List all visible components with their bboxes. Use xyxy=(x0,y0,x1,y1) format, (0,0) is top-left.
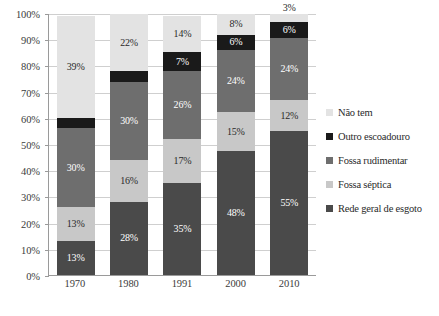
y-axis-tick-label: 90% xyxy=(21,35,40,46)
y-axis-tick-mark xyxy=(45,276,49,277)
bar-segment[interactable]: 30% xyxy=(110,82,148,160)
bar-segment[interactable]: 28% xyxy=(110,202,148,275)
legend-item-label: Fossa séptica xyxy=(338,179,391,190)
x-axis-tick-label: 1970 xyxy=(56,278,94,300)
bar-column[interactable]: 35%17%26%7%14% xyxy=(163,14,201,275)
x-axis: 19701980199120002010 xyxy=(48,278,316,300)
bar-column[interactable]: 28%16%30%4%22% xyxy=(110,14,148,275)
bar-segment[interactable]: 8% xyxy=(217,14,255,35)
bar-segment-label: 24% xyxy=(280,64,298,74)
legend-item[interactable]: Outro escoadouro xyxy=(326,124,438,148)
legend-item[interactable]: Fossa rudimentar xyxy=(326,148,438,172)
bar-segment[interactable]: 4% xyxy=(57,118,95,128)
legend-item-label: Não tem xyxy=(338,107,372,118)
bar-segment[interactable]: 24% xyxy=(217,50,255,112)
legend-item[interactable]: Fossa séptica xyxy=(326,172,438,196)
bar-segment[interactable]: 7% xyxy=(163,52,201,70)
bar-segment[interactable]: 4% xyxy=(110,71,148,81)
bar-segment-label: 30% xyxy=(67,163,85,173)
bar-segment-label: 17% xyxy=(174,156,192,166)
bar-segment-label: 13% xyxy=(67,253,85,263)
chart-legend: Não temOutro escoadouroFossa rudimentarF… xyxy=(326,100,438,220)
legend-swatch-icon xyxy=(326,181,333,188)
bar-segment-label: 16% xyxy=(120,176,138,186)
bar-segment-label: 55% xyxy=(280,198,298,208)
bar-segment-label: 22% xyxy=(120,38,138,48)
bar-segment[interactable]: 14% xyxy=(163,16,201,53)
bar-segment-label: 13% xyxy=(67,219,85,229)
bar-segment[interactable]: 22% xyxy=(110,14,148,71)
bar-segment-label: 24% xyxy=(227,76,245,86)
bar-segment[interactable]: 12% xyxy=(270,100,308,131)
legend-item[interactable]: Não tem xyxy=(326,100,438,124)
y-axis-tick-label: 70% xyxy=(21,87,40,98)
bar-segment[interactable]: 48% xyxy=(217,151,255,275)
legend-swatch-icon xyxy=(326,157,333,164)
bar-segment-label: 39% xyxy=(67,62,85,72)
y-axis-tick-label: 60% xyxy=(21,113,40,124)
bar-segment-label: 14% xyxy=(174,29,192,39)
y-axis-tick-label: 30% xyxy=(21,192,40,203)
bar-segment[interactable]: 55% xyxy=(270,131,308,275)
bar-segment-label: 6% xyxy=(229,37,242,47)
bar-segment[interactable]: 15% xyxy=(217,112,255,151)
bar-segment-label: 35% xyxy=(174,224,192,234)
bar-segment[interactable]: 16% xyxy=(110,160,148,202)
bar-segment-label: 28% xyxy=(120,233,138,243)
bar-segment-label: 26% xyxy=(174,100,192,110)
y-axis-tick-label: 0% xyxy=(26,271,40,282)
bar-segment-label: 7% xyxy=(176,57,189,67)
y-axis-tick-label: 10% xyxy=(21,244,40,255)
x-axis-tick-label: 1991 xyxy=(163,278,201,300)
bar-segment[interactable]: 6% xyxy=(270,22,308,38)
legend-swatch-icon xyxy=(326,133,333,140)
bar-segment[interactable]: 6% xyxy=(217,35,255,51)
bar-column[interactable]: 13%13%30%4%39% xyxy=(57,14,95,275)
y-axis-tick-label: 80% xyxy=(21,61,40,72)
bar-segment-label: 3% xyxy=(283,3,296,13)
bar-segment[interactable]: 3% xyxy=(270,14,308,22)
bar-segment[interactable]: 39% xyxy=(57,16,95,118)
bar-segment[interactable]: 30% xyxy=(57,128,95,207)
bar-segment[interactable]: 17% xyxy=(163,139,201,184)
bar-segment-label: 30% xyxy=(120,116,138,126)
y-axis: 0%10%20%30%40%50%60%70%80%90%100% xyxy=(0,14,44,276)
bar-segment-label: 15% xyxy=(227,127,245,137)
x-axis-tick-label: 2000 xyxy=(217,278,255,300)
bar-segment[interactable]: 26% xyxy=(163,71,201,139)
legend-item[interactable]: Rede geral de esgoto xyxy=(326,196,438,220)
bar-segment-label: 6% xyxy=(283,25,296,35)
legend-item-label: Outro escoadouro xyxy=(338,131,410,142)
bar-segment-label: 8% xyxy=(229,19,242,29)
legend-swatch-icon xyxy=(326,109,333,116)
y-axis-tick-label: 40% xyxy=(21,166,40,177)
x-axis-tick-label: 2010 xyxy=(270,278,308,300)
legend-item-label: Rede geral de esgoto xyxy=(338,203,422,214)
y-axis-tick-label: 50% xyxy=(21,140,40,151)
bar-column[interactable]: 55%12%24%6%3% xyxy=(270,14,308,275)
bar-segment[interactable]: 24% xyxy=(270,38,308,101)
legend-swatch-icon xyxy=(326,205,333,212)
bar-segment[interactable]: 35% xyxy=(163,183,201,275)
y-axis-tick-label: 100% xyxy=(16,9,40,20)
bar-segment[interactable]: 13% xyxy=(57,207,95,241)
bar-column[interactable]: 48%15%24%6%8% xyxy=(217,14,255,275)
bar-segment[interactable]: 13% xyxy=(57,241,95,275)
stacked-bar-chart: 0%10%20%30%40%50%60%70%80%90%100% 13%13%… xyxy=(0,0,439,316)
plot-area: 13%13%30%4%39%28%16%30%4%22%35%17%26%7%1… xyxy=(48,14,316,276)
x-axis-tick-label: 1980 xyxy=(109,278,147,300)
bar-segment-label: 48% xyxy=(227,208,245,218)
bar-group: 13%13%30%4%39%28%16%30%4%22%35%17%26%7%1… xyxy=(49,14,316,275)
bar-segment-label: 12% xyxy=(280,111,298,121)
legend-item-label: Fossa rudimentar xyxy=(338,155,407,166)
y-axis-tick-label: 20% xyxy=(21,218,40,229)
